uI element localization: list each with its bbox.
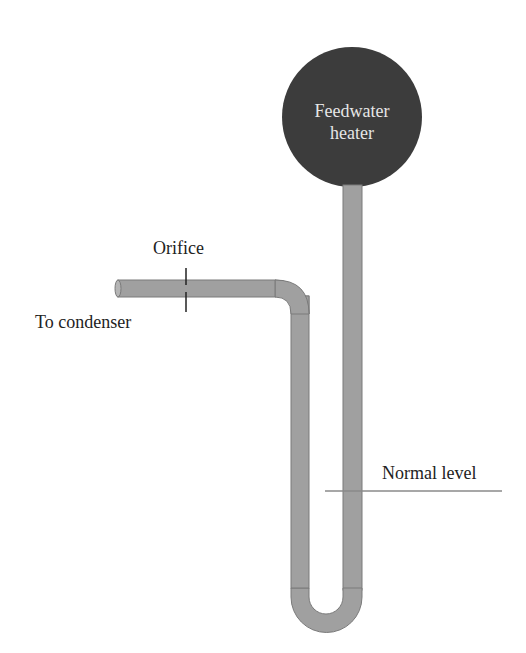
elbow-bend-fill <box>275 280 309 314</box>
heater-label-line2: heater <box>282 122 422 144</box>
to-condenser-label: To condenser <box>35 312 131 333</box>
heater-label-line1: Feedwater <box>282 100 422 122</box>
drain-pipe-left <box>291 296 309 588</box>
pipe-to-condenser <box>118 280 275 297</box>
drain-pipe-right <box>343 185 362 590</box>
orifice-label: Orifice <box>153 238 204 259</box>
heater-label: Feedwater heater <box>282 100 422 144</box>
u-bend <box>291 588 362 632</box>
pipe-open-end <box>115 280 121 297</box>
normal-level-label: Normal level <box>382 463 476 484</box>
diagram-canvas: Feedwater heater Orifice To condenser No… <box>0 0 526 653</box>
